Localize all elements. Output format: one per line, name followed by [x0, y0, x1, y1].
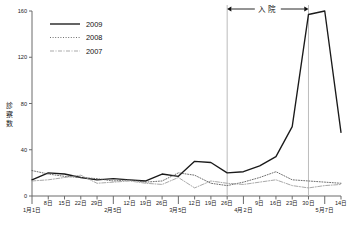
y-axis-tick-labels: 04080120160 [18, 8, 27, 199]
x-tick-label: 16日 [270, 200, 282, 207]
x-major-label: 2月5日 [104, 207, 122, 214]
x-tick-label: 19日 [205, 200, 217, 207]
x-major-label: 1月1日 [23, 207, 41, 214]
line-chart: 04080120160 8日15日22日29日12日19日26日12日19日26… [0, 0, 349, 230]
legend-label-2008: 2008 [86, 33, 102, 42]
x-tick-label: 23日 [286, 200, 298, 207]
x-major-label: 5月7日 [316, 207, 334, 214]
data-series-group [32, 11, 341, 188]
x-tick-label: 12日 [123, 200, 135, 207]
y-axis-title-char: 数 [6, 119, 13, 128]
x-tick-label: 26日 [221, 200, 233, 207]
y-axis-title: 診察数 [6, 101, 13, 128]
x-major-label: 3月5日 [169, 207, 187, 214]
series-line-2009 [32, 11, 341, 181]
annotation-group: 入院 [227, 4, 308, 15]
y-tick-label: 160 [18, 8, 27, 14]
x-tick-label: 19日 [140, 200, 152, 207]
series-line-2008 [32, 171, 341, 186]
y-axis-title-char: 診 [6, 101, 13, 110]
x-tick-label: 29日 [91, 200, 103, 207]
x-tick-label: 14日 [335, 200, 347, 207]
x-tick-label: 30日 [302, 200, 314, 207]
legend-label-2007: 2007 [86, 47, 102, 56]
x-tick-label: 22日 [75, 200, 87, 207]
y-tick-label: 80 [21, 101, 27, 107]
chart-container: 04080120160 8日15日22日29日12日19日26日12日19日26… [0, 0, 349, 230]
x-tick-label: 12日 [189, 200, 201, 207]
y-tick-label: 120 [18, 54, 27, 60]
annotation-label: 入院 [258, 4, 277, 14]
x-axis-tick-labels: 8日15日22日29日12日19日26日12日19日26日9日16日23日30日… [44, 200, 347, 207]
x-axis-major-labels: 1月1日2月5日3月5日4月2日5月7日 [23, 207, 334, 214]
x-tick-label: 15日 [58, 200, 70, 207]
y-tick-label: 0 [24, 193, 27, 199]
legend: 200920082007 [50, 20, 102, 56]
x-tick-label: 26日 [156, 200, 168, 207]
annotation-arrowhead-left-icon [227, 6, 231, 11]
x-tick-label: 9日 [255, 200, 264, 207]
x-major-label: 4月2日 [234, 207, 252, 214]
y-axis-title-char: 察 [6, 110, 13, 119]
x-tick-label: 8日 [44, 200, 53, 207]
y-tick-label: 40 [21, 147, 27, 153]
annotation-arrowhead-right-icon [304, 6, 308, 11]
legend-label-2009: 2009 [86, 20, 102, 29]
